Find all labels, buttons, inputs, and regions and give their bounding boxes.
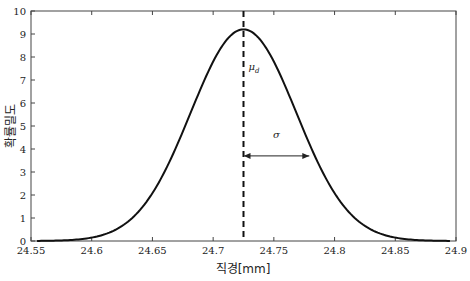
y-axis-label: 확률밀도 <box>4 104 18 148</box>
svg-text:9: 9 <box>20 29 26 40</box>
svg-text:24.9: 24.9 <box>445 245 467 256</box>
svg-text:4: 4 <box>20 144 26 155</box>
svg-text:24.65: 24.65 <box>138 245 167 256</box>
mean-label: μd <box>249 61 261 75</box>
svg-text:3: 3 <box>20 167 26 178</box>
svg-text:24.85: 24.85 <box>381 245 410 256</box>
svg-text:7: 7 <box>20 75 26 86</box>
svg-text:2: 2 <box>20 190 26 201</box>
svg-text:1: 1 <box>20 213 26 224</box>
svg-text:24.6: 24.6 <box>81 245 103 256</box>
svg-text:5: 5 <box>20 121 26 132</box>
svg-text:24.55: 24.55 <box>17 245 46 256</box>
svg-text:24.7: 24.7 <box>202 245 224 256</box>
probability-density-chart: 012345678910 24.5524.624.6524.724.7524.8… <box>0 0 470 281</box>
svg-text:24.8: 24.8 <box>323 245 345 256</box>
svg-text:10: 10 <box>13 6 26 17</box>
x-axis-label: 직경[mm] <box>216 262 271 276</box>
svg-text:8: 8 <box>20 52 26 63</box>
svg-text:24.75: 24.75 <box>260 245 289 256</box>
svg-text:6: 6 <box>20 98 26 109</box>
x-axis-ticks: 24.5524.624.6524.724.7524.824.8524.9 <box>17 11 467 256</box>
sigma-label: σ <box>273 129 281 140</box>
